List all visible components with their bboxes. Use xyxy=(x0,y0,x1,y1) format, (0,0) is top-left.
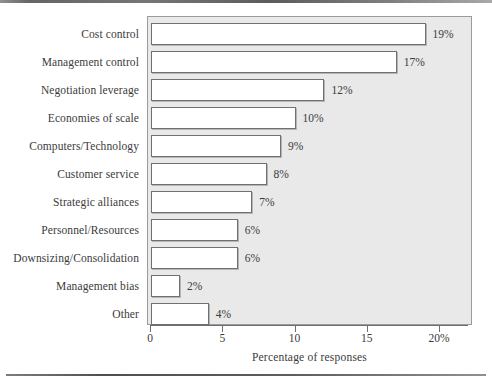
category-label: Personnel/Resources xyxy=(41,219,139,241)
bar-value-label: 8% xyxy=(274,163,289,185)
bar xyxy=(151,23,426,45)
x-axis-line xyxy=(150,325,468,326)
bar xyxy=(151,107,296,129)
category-label: Cost control xyxy=(81,23,139,45)
category-label: Strategic alliances xyxy=(53,191,139,213)
bar xyxy=(151,163,267,185)
bar-row: 9% xyxy=(148,135,473,157)
bar-row: 6% xyxy=(148,247,473,269)
bar xyxy=(151,135,281,157)
bar-row: 12% xyxy=(148,79,473,101)
x-tick-label: 0 xyxy=(147,332,153,344)
bar xyxy=(151,191,252,213)
bar-value-label: 6% xyxy=(245,219,260,241)
category-axis: Cost controlManagement controlNegotiatio… xyxy=(2,17,143,325)
bar xyxy=(151,247,238,269)
x-tick-label: 10 xyxy=(289,332,301,344)
category-label: Negotiation leverage xyxy=(41,79,139,101)
plot-area: 19%17%12%10%9%8%7%6%6%2%4% xyxy=(147,16,472,325)
bar-value-label: 4% xyxy=(216,303,231,325)
bar-value-label: 12% xyxy=(331,79,352,101)
bar xyxy=(151,275,180,297)
category-label: Other xyxy=(112,303,139,325)
category-label: Management control xyxy=(42,51,139,73)
x-tick-label: 20% xyxy=(428,332,449,344)
bar-row: 2% xyxy=(148,275,473,297)
category-label: Economies of scale xyxy=(48,107,139,129)
bar xyxy=(151,303,209,325)
bar xyxy=(151,79,324,101)
bar-row: 4% xyxy=(148,303,473,325)
scan-artifact-bottom-rule xyxy=(6,374,486,376)
bar-value-label: 2% xyxy=(187,275,202,297)
bars-layer: 19%17%12%10%9%8%7%6%6%2%4% xyxy=(148,17,473,326)
bar-value-label: 7% xyxy=(259,191,274,213)
bar-value-label: 19% xyxy=(433,23,454,45)
bar xyxy=(151,51,397,73)
x-tick-label: 5 xyxy=(219,332,225,344)
bar xyxy=(151,219,238,241)
bar-value-label: 9% xyxy=(288,135,303,157)
bar-row: 7% xyxy=(148,191,473,213)
category-label: Customer service xyxy=(57,163,139,185)
x-axis-title: Percentage of responses xyxy=(147,351,472,363)
bar-row: 10% xyxy=(148,107,473,129)
x-axis: Percentage of responses 05101520% xyxy=(147,325,472,375)
bar-chart-figure: Cost controlManagement controlNegotiatio… xyxy=(0,0,492,388)
bar-row: 19% xyxy=(148,23,473,45)
bar-row: 17% xyxy=(148,51,473,73)
bar-row: 8% xyxy=(148,163,473,185)
bar-row: 6% xyxy=(148,219,473,241)
bar-value-label: 6% xyxy=(245,247,260,269)
category-label: Computers/Technology xyxy=(29,135,139,157)
bar-value-label: 17% xyxy=(404,51,425,73)
category-label: Downsizing/Consolidation xyxy=(13,247,139,269)
category-label: Management bias xyxy=(56,275,139,297)
bar-value-label: 10% xyxy=(303,107,324,129)
x-tick-label: 15 xyxy=(361,332,373,344)
